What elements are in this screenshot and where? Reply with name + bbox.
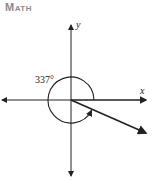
- terminal-ray: [71, 100, 146, 133]
- x-axis-label: x: [139, 85, 145, 96]
- y-axis-label: y: [75, 19, 81, 30]
- angle-diagram: y x 337°: [0, 0, 153, 180]
- angle-label: 337°: [35, 74, 54, 85]
